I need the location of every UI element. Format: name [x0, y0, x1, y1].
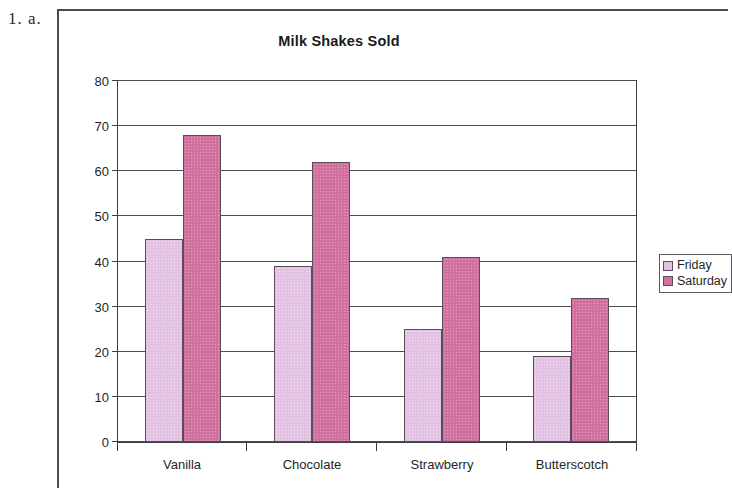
bar-group — [118, 81, 248, 442]
bar-butterscotch-friday — [533, 356, 571, 442]
bar-vanilla-friday — [145, 239, 183, 442]
x-axis-tick-mark — [117, 443, 247, 451]
chart-title: Milk Shakes Sold — [59, 33, 619, 49]
x-axis-label-vanilla: Vanilla — [117, 457, 247, 472]
x-axis-tick-marks — [117, 443, 637, 451]
y-axis-tick-label: 80 — [95, 74, 109, 89]
bar-chocolate-friday — [274, 266, 312, 442]
bar-group — [377, 81, 507, 442]
bar-vanilla-saturday — [183, 135, 221, 442]
x-axis-labels: VanillaChocolateStrawberryButterscotch — [117, 457, 637, 472]
y-axis-tick-label: 50 — [95, 209, 109, 224]
x-axis-label-butterscotch: Butterscotch — [507, 457, 637, 472]
legend-label: Friday — [677, 258, 712, 274]
legend-item-saturday: Saturday — [663, 274, 727, 290]
x-axis-tick-mark — [507, 443, 637, 451]
y-axis-tick-label: 30 — [95, 299, 109, 314]
bar-strawberry-friday — [404, 329, 442, 442]
bar-chocolate-saturday — [312, 162, 350, 442]
y-axis-tick-label: 0 — [102, 435, 109, 450]
bar-strawberry-saturday — [442, 257, 480, 442]
bar-butterscotch-saturday — [571, 298, 609, 442]
y-axis-tick-label: 40 — [95, 254, 109, 269]
y-axis-tick-label: 70 — [95, 119, 109, 134]
x-axis-label-chocolate: Chocolate — [247, 457, 377, 472]
legend-item-friday: Friday — [663, 258, 727, 274]
legend-swatch-icon — [663, 261, 673, 271]
y-axis-tick-label: 20 — [95, 344, 109, 359]
y-axis-tick-label: 60 — [95, 164, 109, 179]
x-axis-tick-mark — [247, 443, 377, 451]
y-axis-tick-label: 10 — [95, 389, 109, 404]
bar-group — [507, 81, 637, 442]
legend-label: Saturday — [677, 274, 727, 290]
x-axis-label-strawberry: Strawberry — [377, 457, 507, 472]
worksheet-item-number: 1. a. — [8, 9, 42, 29]
chart-frame: Milk Shakes Sold How Many Milk Shakes 80… — [57, 9, 728, 488]
bars-layer — [118, 81, 636, 442]
bar-group — [248, 81, 378, 442]
plot-area: 80706050403020100 — [117, 80, 637, 443]
x-axis-tick-mark — [377, 443, 507, 451]
legend-swatch-icon — [663, 276, 673, 286]
chart-legend: FridaySaturday — [659, 254, 732, 293]
